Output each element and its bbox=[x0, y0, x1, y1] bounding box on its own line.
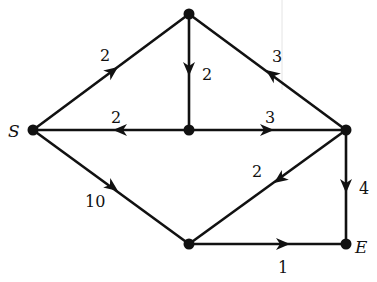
node-label-E: E bbox=[354, 237, 368, 257]
edge-R-B bbox=[189, 130, 346, 244]
weight-R-T: 3 bbox=[272, 47, 282, 66]
weight-T-C: 2 bbox=[202, 65, 212, 84]
weight-S-B: 10 bbox=[85, 192, 105, 211]
arrowheads bbox=[103, 62, 352, 250]
node-center bbox=[184, 125, 195, 136]
node-S bbox=[28, 125, 39, 136]
weight-B-E: 1 bbox=[278, 258, 288, 277]
node-bottom bbox=[184, 239, 195, 250]
weight-C-S: 2 bbox=[111, 108, 121, 127]
weight-R-B: 2 bbox=[252, 162, 262, 181]
node-E bbox=[341, 239, 352, 250]
graph-diagram: S E 2 2 3 2 3 10 2 4 1 bbox=[0, 0, 377, 282]
node-right bbox=[341, 125, 352, 136]
weight-S-T: 2 bbox=[100, 46, 110, 65]
weight-R-E: 4 bbox=[359, 179, 369, 198]
node-label-S: S bbox=[8, 121, 20, 141]
weight-C-R: 3 bbox=[265, 108, 275, 127]
node-top bbox=[184, 9, 195, 20]
